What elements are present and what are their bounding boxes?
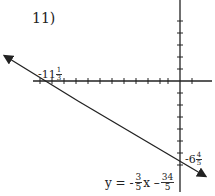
line-equation: y = - 35 x – 345 xyxy=(105,173,174,192)
y-intercept-label: -645 xyxy=(185,152,202,167)
x-intercept-label: -1113 xyxy=(38,67,62,82)
coordinate-graph xyxy=(0,0,215,196)
